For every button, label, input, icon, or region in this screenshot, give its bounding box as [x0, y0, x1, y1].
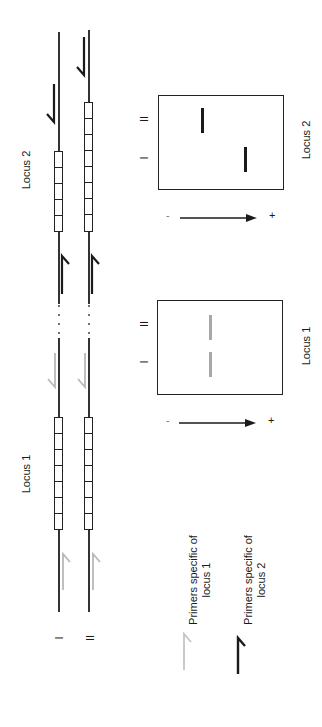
locus-2-repeat-allele-II: [84, 102, 93, 232]
locus-2-repeat-allele-I: [54, 151, 63, 232]
legend-locus-2-text: Primers specific of locus 2: [242, 528, 268, 632]
gel-locus-2-label: Locus 2: [300, 118, 312, 162]
locus-1-reverse-primer-allele-II-icon: [77, 353, 91, 397]
locus-1-forward-primer-allele-II-icon: [91, 550, 105, 594]
locus-2-forward-primer-allele-I-icon: [60, 252, 74, 296]
locus-1-reverse-primer-allele-I-icon: [47, 353, 61, 397]
gel-locus-2-lane-II-label: II: [138, 112, 150, 126]
migration-arrow-icon: [180, 213, 260, 223]
locus-1-label: Locus 1: [20, 452, 32, 496]
gel-locus-2-plus-sign: +: [269, 209, 275, 221]
gel-locus-2-band-allele-I: [244, 147, 247, 172]
locus-gap-dots-allele-I: [58, 305, 60, 341]
locus-1-repeat-allele-II: [84, 417, 93, 530]
locus-gap-dots-allele-II: [88, 305, 90, 341]
locus-2-reverse-primer-allele-I-icon: [46, 84, 60, 128]
allele-II-label: II: [84, 632, 96, 644]
migration-arrow-icon: [179, 418, 259, 428]
gel-locus-1-label: Locus 1: [300, 324, 312, 368]
gel-locus-1-band-allele-II: [209, 315, 212, 340]
legend-locus-1-text: Primers specific of locus 1: [187, 528, 213, 632]
gel-locus-1-band-allele-I: [209, 352, 212, 377]
gel-locus-1: [157, 300, 283, 395]
locus-2-label: Locus 2: [20, 148, 32, 192]
gel-locus-1-lane-II-label: II: [138, 317, 150, 331]
locus-1-repeat-allele-I: [54, 417, 63, 530]
locus-2-reverse-primer-allele-II-icon: [76, 37, 90, 81]
gel-locus-2-lane-I-label: I: [138, 151, 150, 165]
gel-locus-2-minus-sign: -: [166, 209, 170, 221]
gel-locus-1-lane-I-label: I: [138, 355, 150, 369]
gel-locus-2-band-allele-II: [201, 108, 204, 133]
legend-locus-1-primer-icon: [182, 630, 196, 674]
gel-locus-1-plus-sign: +: [268, 414, 274, 426]
gel-locus-1-minus-sign: -: [166, 414, 170, 426]
legend-locus-2-primer-icon: [236, 634, 250, 678]
locus-1-forward-primer-allele-I-icon: [61, 550, 75, 594]
allele-I-label: I: [53, 633, 65, 643]
gel-locus-2: [158, 95, 284, 190]
locus-2-forward-primer-allele-II-icon: [90, 252, 104, 296]
